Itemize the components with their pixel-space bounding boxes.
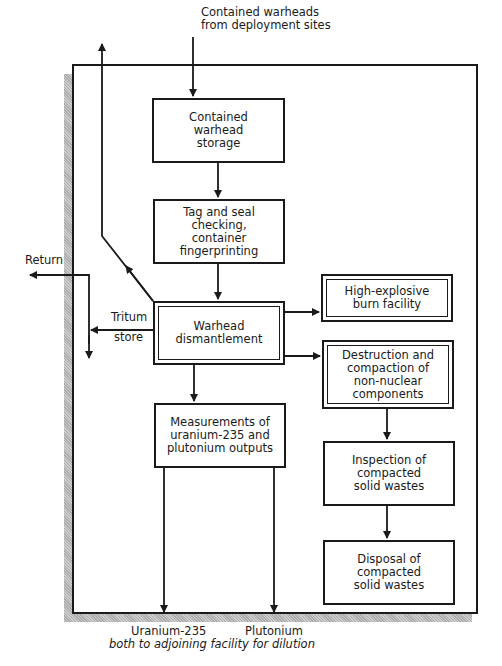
label-tritium: Tritum [111, 311, 147, 324]
output-note: both to adjoining facility for dilution [109, 638, 315, 651]
box-label: Tag and seal checking, container fingerp… [180, 206, 258, 258]
box-disposal: Disposal of compacted solid wastes [323, 540, 455, 605]
box-destruction-compaction: Destruction and compaction of non-nuclea… [322, 340, 454, 409]
box-label: Warhead dismantlement [176, 320, 263, 346]
box-inspection: Inspection of compacted solid wastes [323, 441, 455, 506]
label-return: Return [25, 254, 63, 267]
box-label: Inspection of compacted solid wastes [352, 454, 426, 493]
arrow-return-up [102, 44, 153, 301]
arrow-return-left [30, 275, 89, 344]
label-tritium-store: store [114, 331, 143, 344]
box-label: Disposal of compacted solid wastes [354, 553, 424, 592]
box-label: Destruction and compaction of non-nuclea… [342, 349, 434, 401]
box-tag-seal-checking: Tag and seal checking, container fingerp… [153, 199, 285, 264]
box-label: Contained warhead storage [189, 111, 248, 150]
arrow-return-diagonal [126, 266, 153, 301]
box-measurements: Measurements of uranium-235 and plutoniu… [154, 403, 286, 468]
input-label-contained-warheads: Contained warheads from deployment sites [201, 6, 331, 32]
box-contained-warhead-storage: Contained warhead storage [152, 98, 285, 163]
box-label: High-explosive burn facility [345, 285, 430, 311]
box-label: Measurements of uranium-235 and plutoniu… [167, 416, 273, 455]
box-warhead-dismantlement: Warhead dismantlement [153, 301, 285, 365]
box-high-explosive-burn: High-explosive burn facility [321, 274, 453, 322]
